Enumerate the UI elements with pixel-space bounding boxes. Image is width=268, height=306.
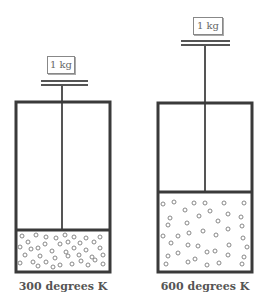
left-gas-particles [18,233,105,269]
right-temperature-label: 600 degrees K [150,280,260,293]
left-weight-label: 1 kg [47,56,75,74]
left-temperature-label: 300 degrees K [8,280,118,293]
diagram-canvas [0,0,268,306]
right-weight-label: 1 kg [193,17,223,35]
right-gas-particles [161,200,249,267]
left-cylinder [16,81,110,272]
right-cylinder [158,41,252,272]
